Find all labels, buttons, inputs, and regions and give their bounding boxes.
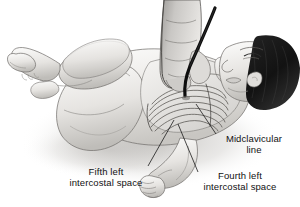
label-fourth-line2: intercostal space bbox=[186, 181, 294, 192]
label-fourth-line1: Fourth left bbox=[218, 170, 262, 181]
label-midclavicular-line1: Midclavicular bbox=[226, 133, 282, 144]
label-midclavicular-line2: line bbox=[214, 144, 294, 155]
label-fifth-line1: Fifth left bbox=[89, 166, 124, 177]
label-fifth-line2: intercostal space bbox=[63, 177, 149, 188]
illustration-figure: Fifth left intercostal space Midclavicul… bbox=[0, 0, 300, 207]
label-midclavicular-line: Midclavicular line bbox=[214, 133, 294, 155]
label-fifth-intercostal-space: Fifth left intercostal space bbox=[63, 166, 149, 188]
label-fourth-intercostal-space: Fourth left intercostal space bbox=[186, 170, 294, 192]
